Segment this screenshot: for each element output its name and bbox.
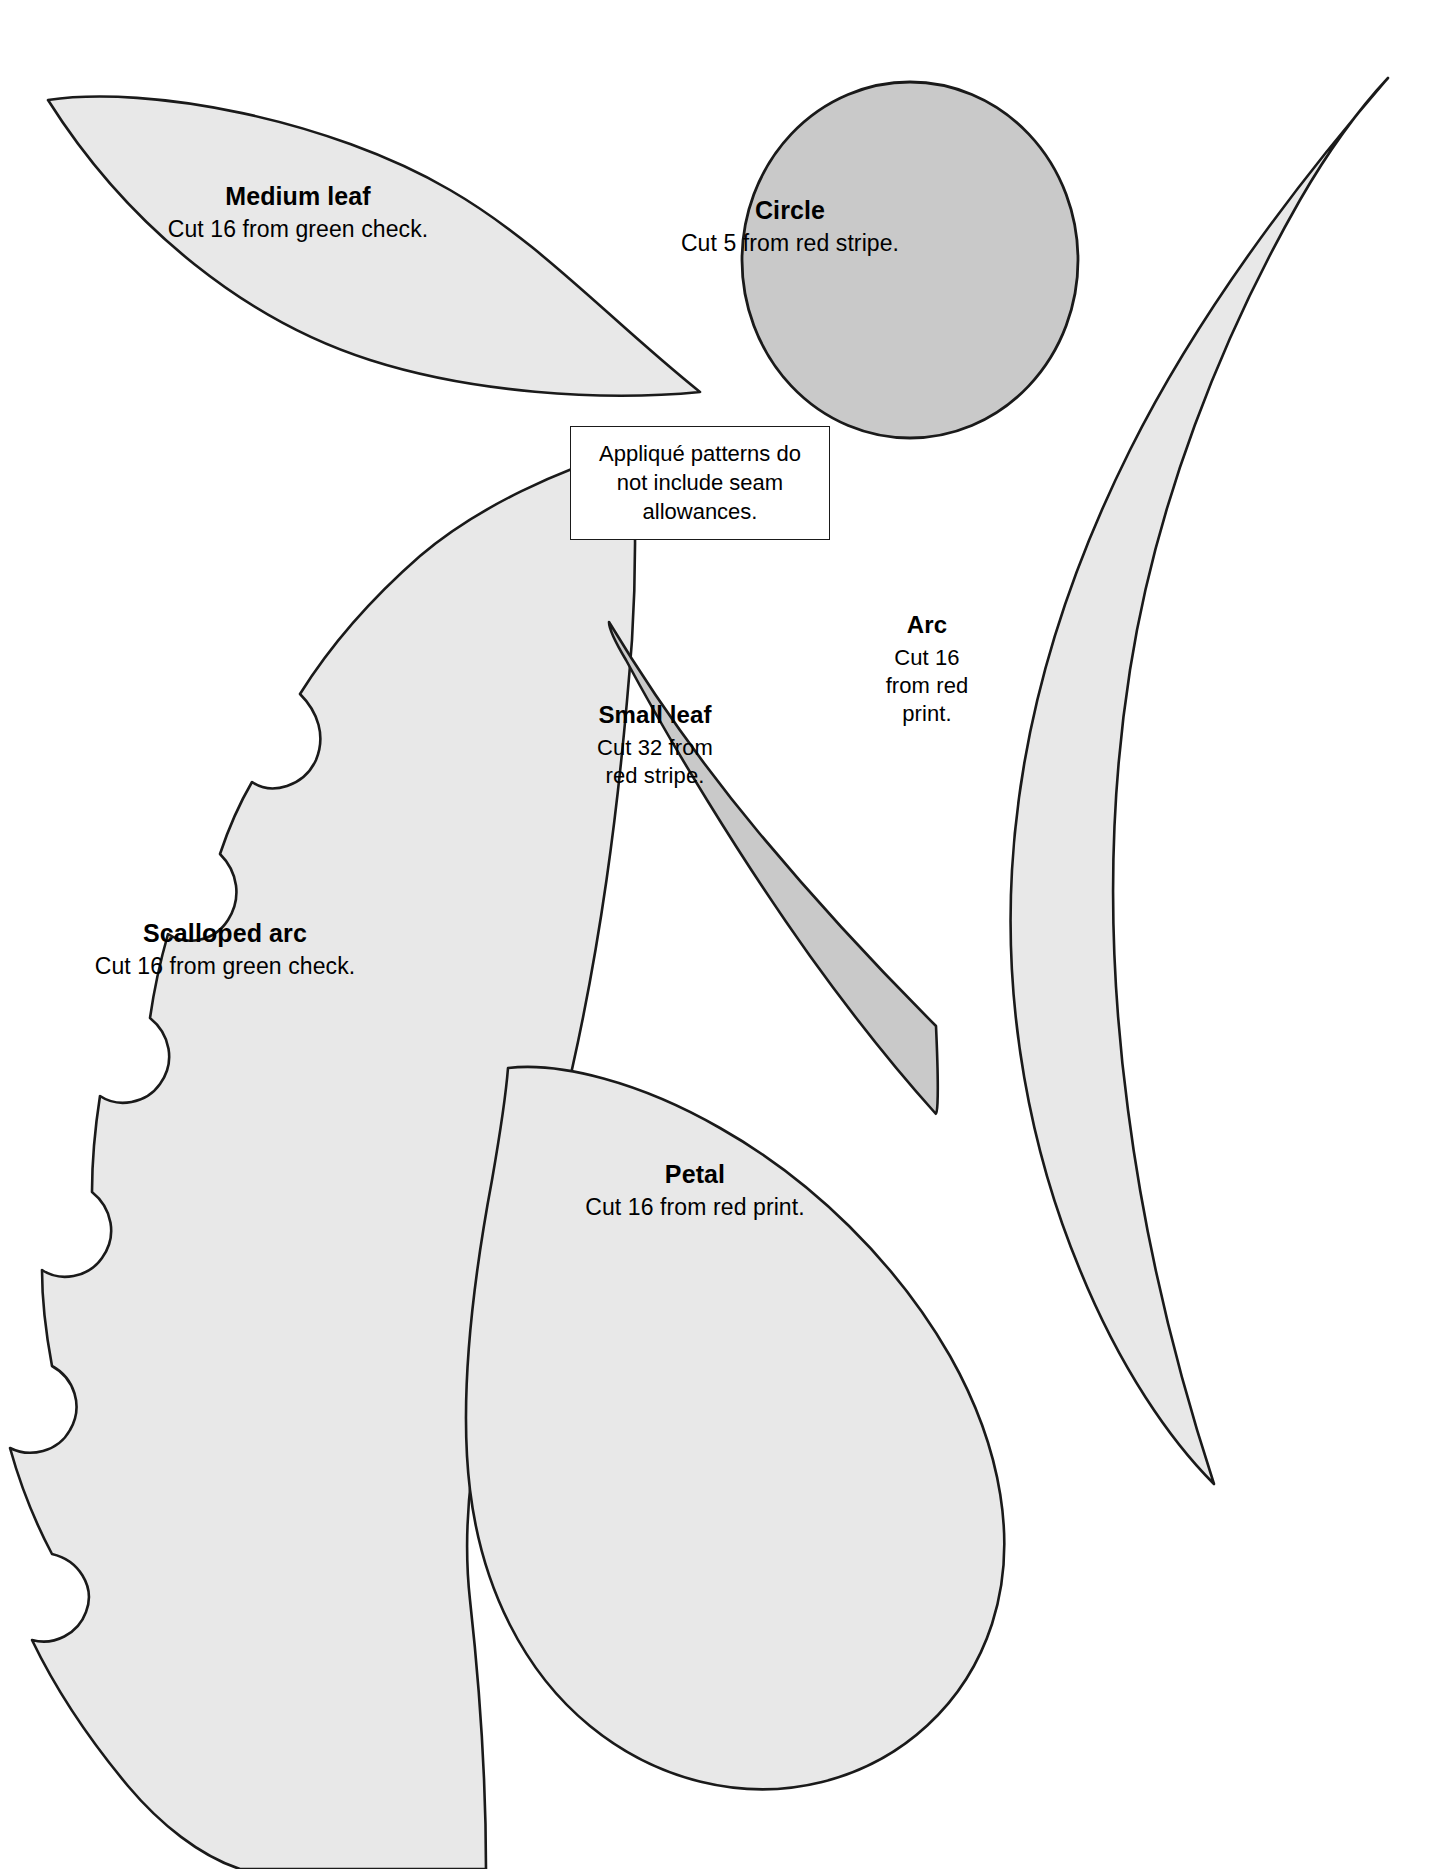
label-desc-medium-leaf: Cut 16 from green check. xyxy=(148,215,448,244)
label-small-leaf: Small leaf Cut 32 from red stripe. xyxy=(560,700,750,790)
label-title-small-leaf: Small leaf xyxy=(560,700,750,731)
pattern-sheet: Medium leaf Cut 16 from green check. Cir… xyxy=(0,0,1440,1869)
label-title-circle: Circle xyxy=(660,194,920,226)
label-title-medium-leaf: Medium leaf xyxy=(148,180,448,212)
label-arc: Arc Cut 16 from red print. xyxy=(862,610,992,728)
label-scalloped-arc: Scalloped arc Cut 16 from green check. xyxy=(60,917,390,981)
label-desc-scalloped-arc: Cut 16 from green check. xyxy=(60,952,390,981)
label-medium-leaf: Medium leaf Cut 16 from green check. xyxy=(148,180,448,244)
label-circle: Circle Cut 5 from red stripe. xyxy=(660,194,920,258)
shape-circle xyxy=(742,82,1078,438)
label-title-scalloped-arc: Scalloped arc xyxy=(60,917,390,949)
seam-allowance-note: Appliqué patterns do not include seam al… xyxy=(570,426,830,540)
label-desc-petal: Cut 16 from red print. xyxy=(560,1193,830,1222)
label-desc-arc-line1: Cut 16 xyxy=(862,644,992,672)
label-desc-arc-line3: print. xyxy=(862,700,992,728)
label-desc-small-leaf-line1: Cut 32 from xyxy=(560,734,750,762)
label-desc-circle: Cut 5 from red stripe. xyxy=(660,229,920,258)
label-desc-small-leaf-line2: red stripe. xyxy=(560,762,750,790)
label-petal: Petal Cut 16 from red print. xyxy=(560,1158,830,1222)
seam-allowance-note-text: Appliqué patterns do not include seam al… xyxy=(599,441,801,524)
label-title-arc: Arc xyxy=(862,610,992,641)
shape-medium-leaf xyxy=(48,97,700,396)
label-title-petal: Petal xyxy=(560,1158,830,1190)
label-desc-arc-line2: from red xyxy=(862,672,992,700)
